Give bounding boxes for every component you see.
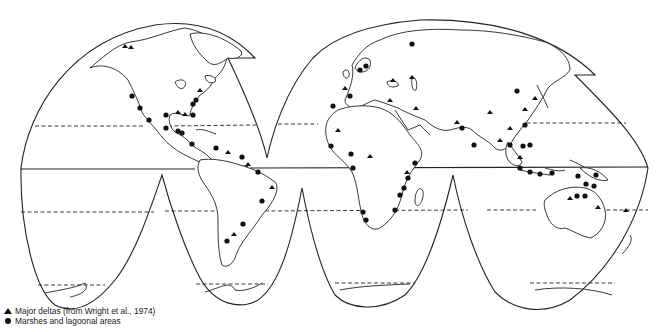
world-map <box>0 0 667 332</box>
continents <box>45 28 631 297</box>
legend-item-deltas: Major deltas (from Wright et al., 1974) <box>4 306 155 316</box>
map-legend: Major deltas (from Wright et al., 1974) … <box>4 306 155 326</box>
triangle-icon <box>4 307 12 315</box>
south-america <box>198 159 277 266</box>
legend-label-deltas: Major deltas (from Wright et al., 1974) <box>15 306 155 316</box>
legend-item-marshes: Marshes and lagoonal areas <box>4 316 155 326</box>
dot-icon <box>4 317 12 325</box>
legend-label-marshes: Marshes and lagoonal areas <box>15 316 121 326</box>
